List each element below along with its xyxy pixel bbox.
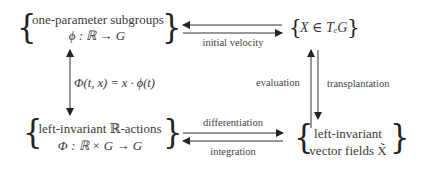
label-action-formula: Φ(t, x) = x · ϕ(t)	[74, 77, 155, 90]
label-integration: integration	[183, 147, 283, 158]
label-differentiation: differentiation	[183, 118, 283, 129]
label-transplantation: transplantation	[327, 79, 389, 90]
label-evaluation: evaluation	[256, 78, 300, 89]
label-initial-velocity: initial velocity	[183, 38, 283, 49]
